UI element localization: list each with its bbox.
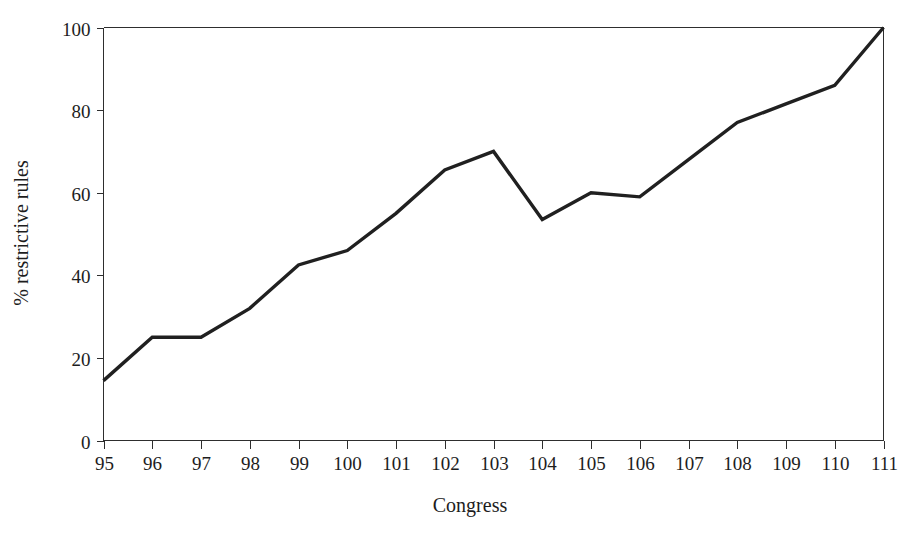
- y-tick-label: 100: [62, 19, 91, 40]
- x-tick-label: 97: [192, 453, 211, 474]
- x-tick-label: 105: [577, 453, 606, 474]
- x-tick-label: 108: [723, 453, 752, 474]
- x-tick-label: 109: [772, 453, 801, 474]
- x-tick-label: 111: [871, 453, 898, 474]
- x-tick-label: 102: [431, 453, 460, 474]
- x-tick-label: 101: [382, 453, 411, 474]
- x-axis-tick-labels: 9596979899100101102103104105106107108109…: [95, 453, 898, 474]
- y-tick-label: 40: [72, 266, 91, 287]
- data-series-line: [104, 28, 884, 381]
- x-tick-label: 107: [675, 453, 704, 474]
- x-tick-label: 110: [822, 453, 850, 474]
- x-tick-label: 95: [95, 453, 114, 474]
- plot-frame: [104, 28, 884, 441]
- x-tick-label: 104: [528, 453, 557, 474]
- x-tick-label: 106: [626, 453, 655, 474]
- y-tick-label: 60: [72, 184, 91, 205]
- x-tick-label: 99: [290, 453, 309, 474]
- y-tick-label: 80: [72, 101, 91, 122]
- y-axis-title: % restrictive rules: [10, 160, 32, 306]
- x-tick-label: 96: [143, 453, 162, 474]
- y-tick-label: 0: [81, 432, 91, 453]
- y-axis-ticks: [97, 29, 104, 442]
- line-chart-plot: 020406080100 959697989910010110210310410…: [0, 0, 905, 538]
- x-tick-label: 100: [333, 453, 362, 474]
- y-tick-label: 20: [72, 349, 91, 370]
- chart-container: 020406080100 959697989910010110210310410…: [0, 0, 905, 538]
- x-tick-label: 98: [241, 453, 260, 474]
- x-axis-ticks: [105, 441, 885, 449]
- x-axis-title: Congress: [433, 494, 508, 517]
- x-tick-label: 103: [480, 453, 509, 474]
- y-axis-tick-labels: 020406080100: [62, 19, 91, 453]
